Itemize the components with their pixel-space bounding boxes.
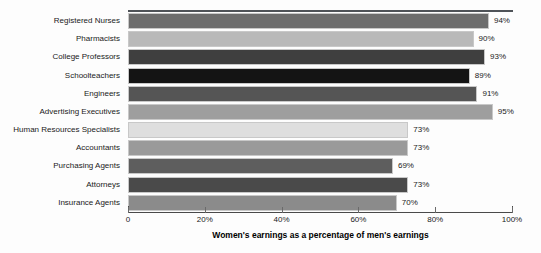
bar-value-label: 94% [489,13,510,29]
bar [128,104,493,120]
bar [128,13,489,29]
x-tick-mark [282,207,283,213]
x-axis-line [128,212,513,213]
category-label: Schoolteachers [65,67,120,85]
bar-value-label: 69% [393,158,414,174]
category-label: College Professors [52,48,120,66]
x-axis-title: Women's earnings as a percentage of men'… [128,230,513,240]
bar-value-label: 93% [485,49,506,65]
x-tick-label: 80% [427,215,443,224]
x-tick-label: 0 [126,215,130,224]
bar-row: 89% [128,67,512,85]
bar [128,68,470,84]
bar [128,140,408,156]
bar-row: 70% [128,194,512,212]
bar-value-label: 90% [474,31,495,47]
bar-row: 69% [128,157,512,175]
bar [128,49,485,65]
category-label: Human Resources Specialists [13,121,120,139]
bar-row: 73% [128,121,512,139]
x-tick-mark [358,207,359,213]
bar-row: 93% [128,48,512,66]
category-label: Insurance Agents [58,194,120,212]
bar [128,177,408,193]
bar [128,158,393,174]
bar-value-label: 91% [477,86,498,102]
bar-row: 91% [128,85,512,103]
x-tick-mark [205,207,206,213]
bar [128,31,474,47]
bar [128,86,477,102]
x-tick-mark [512,207,513,213]
bar-row: 90% [128,30,512,48]
bar-row: 95% [128,103,512,121]
category-label: Engineers [84,85,120,103]
x-tick-label: 20% [197,215,213,224]
category-axis-labels: Registered NursesPharmacistsCollege Prof… [0,12,124,212]
category-label: Purchasing Agents [53,157,120,175]
category-label: Attorneys [86,176,120,194]
bar-chart: Registered NursesPharmacistsCollege Prof… [0,0,541,253]
bar [128,195,397,211]
plot-area: 94%90%93%89%91%95%73%73%69%73%70% [128,12,512,212]
bar [128,122,408,138]
bar-row: 94% [128,12,512,30]
x-tick-label: 100% [502,215,522,224]
category-label: Advertising Executives [40,103,120,121]
bar-value-label: 73% [408,177,429,193]
bar-value-label: 89% [470,68,491,84]
category-label: Pharmacists [76,30,120,48]
bar-value-label: 95% [493,104,514,120]
x-tick-mark [128,207,129,213]
bar-value-label: 73% [408,140,429,156]
x-tick-mark [435,207,436,213]
x-tick-label: 40% [274,215,290,224]
x-tick-label: 60% [350,215,366,224]
bar-row: 73% [128,176,512,194]
category-label: Accountants [76,139,120,157]
bar-value-label: 73% [408,122,429,138]
bar-value-label: 70% [397,195,418,211]
bar-row: 73% [128,139,512,157]
category-label: Registered Nurses [54,12,120,30]
